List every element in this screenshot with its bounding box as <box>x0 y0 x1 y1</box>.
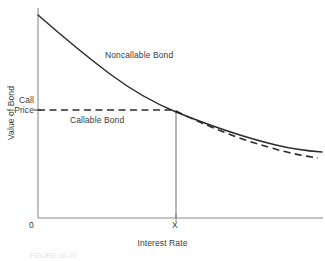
call-price-axis-label: Call Price <box>2 96 34 115</box>
x-axis-call-tick-label: X <box>172 220 178 230</box>
noncallable-bond-curve <box>38 15 322 152</box>
call-price-label-line2: Price <box>2 106 34 116</box>
x-axis-title: Interest Rate <box>0 238 325 248</box>
callable-bond-annotation: Callable Bond <box>70 115 124 125</box>
figure-caption-clipped: FIGURE 16-10 <box>30 252 150 259</box>
bond-value-figure: Value of Bond Call Price Noncallable Bon… <box>0 0 325 261</box>
x-axis-origin-tick-label: 0 <box>29 220 34 230</box>
bond-value-chart <box>0 0 325 261</box>
callable-bond-declining-segment <box>176 111 318 158</box>
noncallable-bond-annotation: Noncallable Bond <box>105 50 173 60</box>
